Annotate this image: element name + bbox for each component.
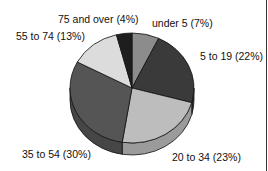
pie-label-20-to-34: 20 to 34 (23%) [172, 151, 241, 163]
pie-chart: under 5 (7%)5 to 19 (22%)20 to 34 (23%)3… [0, 0, 268, 171]
chart-frame-right [266, 0, 267, 171]
pie-label-under-5: under 5 (7%) [152, 17, 213, 29]
pie-chart-svg: under 5 (7%)5 to 19 (22%)20 to 34 (23%)3… [0, 0, 268, 171]
pie-label-35-to-54: 35 to 54 (30%) [22, 148, 91, 160]
pie-label-75-and-over: 75 and over (4%) [58, 13, 139, 25]
pie-label-55-to-74: 55 to 74 (13%) [16, 30, 85, 42]
pie-slices [70, 33, 194, 143]
pie-label-5-to-19: 5 to 19 (22%) [200, 50, 263, 62]
